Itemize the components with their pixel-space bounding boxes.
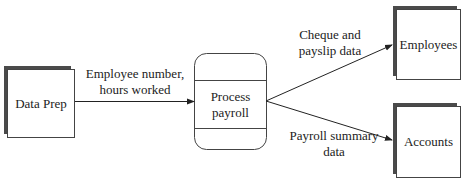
flow-label-line1: Employee number,: [76, 66, 194, 82]
employees-label: Employees: [397, 10, 460, 79]
process-label-line1: Process: [211, 89, 251, 105]
data-flow-diagram: Data Prep Process payroll Employees Acco…: [0, 0, 464, 183]
flow-label-process-to-employees: Cheque and payslip data: [290, 27, 370, 59]
process-label-line2: payroll: [212, 105, 249, 121]
accounts-label: Accounts: [397, 107, 460, 177]
process-payroll-label: Process payroll: [195, 81, 266, 128]
flow-label-line2: payslip data: [290, 43, 370, 59]
flow-label-dataprep-to-process: Employee number, hours worked: [76, 66, 194, 98]
flow-label-line2: data: [282, 144, 386, 160]
flow-label-line1: Payroll summary: [282, 128, 386, 144]
flow-label-line2: hours worked: [76, 82, 194, 98]
data-prep-label: Data Prep: [8, 70, 74, 137]
flow-label-process-to-accounts: Payroll summary data: [282, 128, 386, 160]
flow-label-line1: Cheque and: [290, 27, 370, 43]
